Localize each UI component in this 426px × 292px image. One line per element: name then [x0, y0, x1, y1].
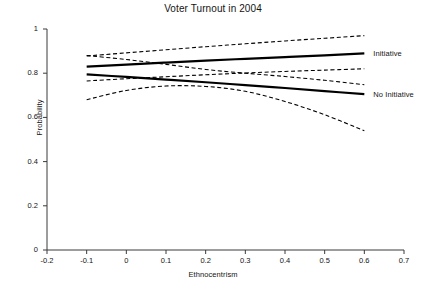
y-tick-label: 0.8	[12, 68, 38, 77]
y-tick-label: 1	[12, 24, 38, 33]
plot-area	[0, 0, 426, 292]
x-tick-label: 0.3	[230, 256, 260, 265]
series-line-no-initiative	[87, 74, 365, 94]
no-initiative-label: No Initiative	[373, 90, 414, 99]
y-tick-label: 0.6	[12, 112, 38, 121]
axes-group	[43, 29, 404, 254]
x-tick-label: 0.7	[389, 256, 419, 265]
chart-container: Voter Turnout in 2004 Probability Ethnoc…	[0, 0, 426, 292]
x-tick-label: -0.1	[72, 256, 102, 265]
x-tick-label: 0.2	[191, 256, 221, 265]
series-line-no-initiative-ci-lower	[87, 86, 365, 131]
x-tick-label: 0.1	[151, 256, 181, 265]
x-tick-label: 0.6	[349, 256, 379, 265]
series-line-initiative-ci-upper	[87, 36, 365, 56]
x-tick-label: 0	[111, 256, 141, 265]
y-tick-label: 0	[12, 245, 38, 254]
series-line-initiative-ci-lower	[87, 69, 365, 81]
x-tick-label: 0.4	[270, 256, 300, 265]
y-tick-label: 0.2	[12, 201, 38, 210]
x-tick-label: -0.2	[32, 256, 62, 265]
initiative-label: Initiative	[373, 49, 402, 58]
x-tick-label: 0.5	[310, 256, 340, 265]
series-group	[87, 36, 365, 131]
y-tick-label: 0.4	[12, 157, 38, 166]
